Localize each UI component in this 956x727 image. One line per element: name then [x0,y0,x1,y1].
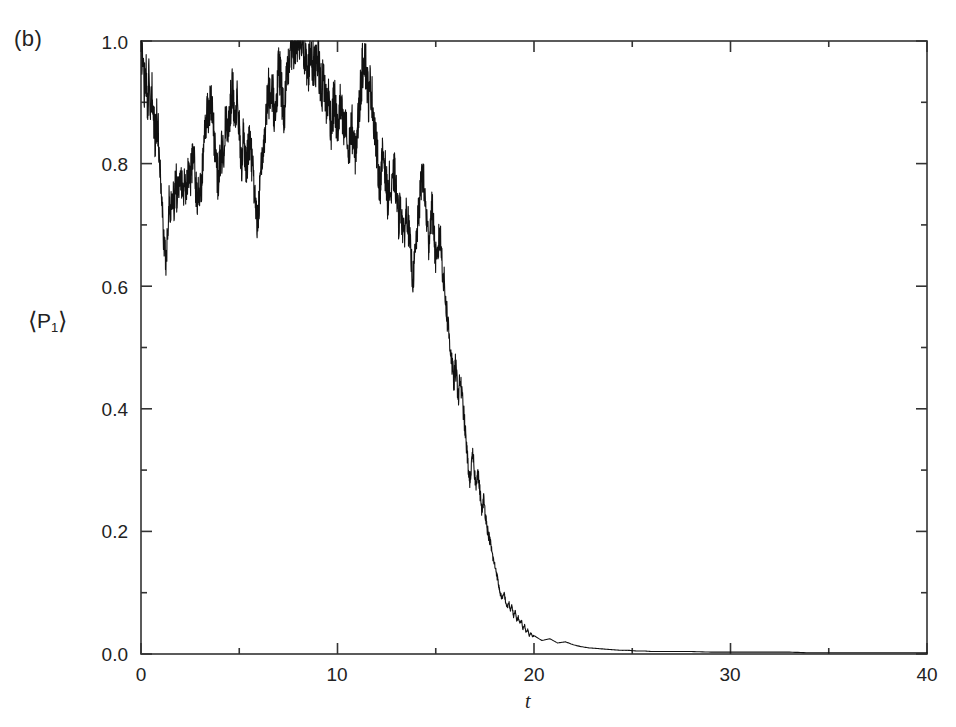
data-line-p1 [141,41,927,653]
plot-frame [141,41,927,654]
plot-area [0,0,956,727]
axis-ticks [141,41,927,654]
figure-panel-b: (b) ⟨P1⟩ t 1.0 0.8 0.6 0.4 0.2 0.0 0 10 … [0,0,956,727]
